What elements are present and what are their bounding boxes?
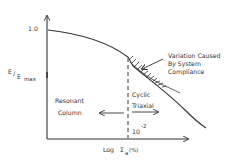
x-axis-label: Log Σ a (%) — [103, 146, 139, 156]
svg-text:Variation Caused: Variation Caused — [168, 52, 220, 59]
cyclic-label-2: Triaxial — [131, 102, 154, 109]
svg-text:/: / — [13, 70, 16, 77]
divider-label: 10 -2 — [132, 123, 146, 135]
svg-text:a: a — [125, 150, 128, 156]
svg-text:Compliance: Compliance — [168, 68, 205, 76]
resonant-label-1: Resonant — [55, 97, 84, 104]
svg-text:max: max — [24, 76, 37, 82]
svg-text:By System: By System — [168, 60, 201, 68]
svg-text:Log: Log — [103, 146, 114, 154]
resonant-label-2: Column — [58, 109, 82, 116]
svg-text:(%): (%) — [129, 147, 139, 153]
svg-text:E: E — [17, 73, 21, 80]
y-axis-label: E / E max — [8, 68, 37, 82]
svg-text:10: 10 — [132, 128, 140, 135]
modulus-degradation-figure: 1.0 E / E max 10 -2 Resonant Column Cycl… — [0, 0, 235, 161]
svg-text:E: E — [8, 68, 12, 75]
svg-text:Σ: Σ — [120, 146, 124, 153]
cyclic-label-1: Cyclic — [132, 91, 151, 99]
compliance-annotation: Variation Caused By System Compliance — [142, 52, 220, 76]
y-tick-1-0: 1.0 — [28, 25, 38, 32]
svg-text:-2: -2 — [141, 123, 146, 129]
